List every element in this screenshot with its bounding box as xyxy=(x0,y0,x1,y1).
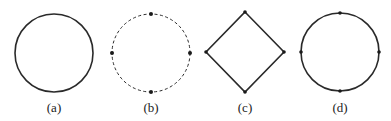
vertex-dot-right xyxy=(282,50,286,54)
vertex-dot-bottom xyxy=(243,90,247,94)
vertex-dot-left xyxy=(110,51,114,55)
dashed-circle xyxy=(112,14,190,92)
figure-canvas: (a) (b) (c) (d) xyxy=(0,0,391,121)
vertex-dot-right xyxy=(188,51,192,55)
diamond-shape xyxy=(206,12,284,92)
solid-circle xyxy=(15,14,93,92)
solid-circle-with-vertices xyxy=(301,13,379,91)
vertex-dot-top xyxy=(338,11,342,15)
vertex-dot-bottom xyxy=(338,89,342,93)
vertex-dot-top xyxy=(243,10,247,14)
vertex-dot-bottom xyxy=(149,90,153,94)
panel-a-label: (a) xyxy=(47,100,61,115)
panel-c-label: (c) xyxy=(238,100,252,115)
panel-c: (c) xyxy=(204,10,286,115)
vertex-dot-left xyxy=(204,50,208,54)
panel-b-label: (b) xyxy=(143,100,158,115)
vertex-dot-top xyxy=(149,12,153,16)
panel-b: (b) xyxy=(110,12,192,115)
vertex-dot-left xyxy=(299,50,303,54)
vertex-dot-right xyxy=(377,50,381,54)
panel-d: (d) xyxy=(299,11,381,115)
panel-a: (a) xyxy=(15,14,93,115)
panel-d-label: (d) xyxy=(332,100,347,115)
